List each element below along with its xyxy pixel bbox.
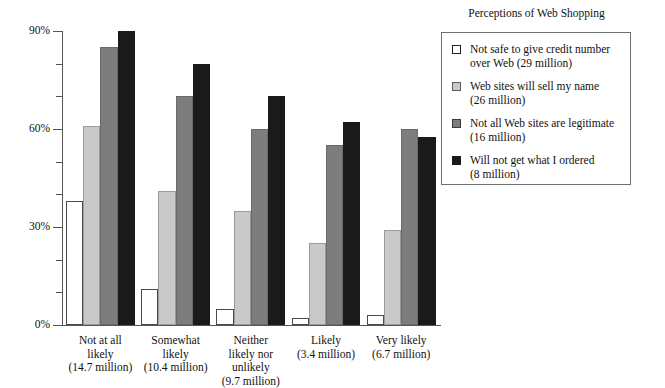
legend-item[interactable]: Will not get what I ordered(8 million) [452, 154, 630, 181]
legend-label: Not safe to give credit numberover Web (… [470, 43, 630, 70]
bar [343, 122, 360, 325]
bar [216, 309, 233, 325]
bar [418, 137, 435, 325]
bar [326, 145, 343, 325]
bar [234, 211, 251, 325]
x-axis-label-line: Very likely [354, 334, 448, 348]
bar-chart-plot-area: 0%30%60%90% Not at alllikely(14.7 millio… [0, 0, 445, 380]
legend-swatch-icon [452, 119, 461, 128]
bar [367, 315, 384, 325]
legend-label: Web sites will sell my name(26 million) [470, 80, 630, 107]
bar [193, 64, 210, 325]
bar [292, 318, 309, 325]
legend-label-line: (8 million) [470, 168, 630, 182]
legend-label-line: Web sites will sell my name [470, 80, 630, 94]
legend-box: Not safe to give credit numberover Web (… [441, 32, 631, 185]
bar [401, 129, 418, 325]
legend-swatch-icon [452, 156, 461, 165]
legend-label-line: Not all Web sites are legitimate [470, 117, 630, 131]
bar-series-group [0, 0, 445, 380]
bar [268, 96, 285, 325]
legend-label: Will not get what I ordered(8 million) [470, 154, 630, 181]
bar [100, 47, 117, 325]
bar [158, 191, 175, 325]
bar [251, 129, 268, 325]
legend-label-line: Will not get what I ordered [470, 154, 630, 168]
legend-title: Perceptions of Web Shopping [441, 6, 632, 20]
legend-label-line: over Web (29 million) [470, 57, 630, 71]
bar [309, 243, 326, 325]
legend-swatch-icon [452, 45, 461, 54]
legend-label-line: (26 million) [470, 94, 630, 108]
legend-label-line: Not safe to give credit number [470, 43, 630, 57]
x-axis-category-label: Very likely(6.7 million) [354, 334, 448, 361]
legend-label-line: (16 million) [470, 131, 630, 145]
legend-item[interactable]: Not safe to give credit numberover Web (… [452, 43, 630, 70]
x-axis-label-line: (9.7 million) [204, 375, 298, 388]
legend-item[interactable]: Not all Web sites are legitimate(16 mill… [452, 117, 630, 144]
bar [118, 31, 135, 325]
legend-swatch-icon [452, 82, 461, 91]
x-axis-label-line: unlikely [204, 361, 298, 375]
bar [66, 201, 83, 325]
legend-label: Not all Web sites are legitimate(16 mill… [470, 117, 630, 144]
bar [384, 230, 401, 325]
bar [176, 96, 193, 325]
bar [141, 289, 158, 325]
x-axis-label-line: (6.7 million) [354, 348, 448, 362]
legend-item[interactable]: Web sites will sell my name(26 million) [452, 80, 630, 107]
bar [83, 126, 100, 325]
